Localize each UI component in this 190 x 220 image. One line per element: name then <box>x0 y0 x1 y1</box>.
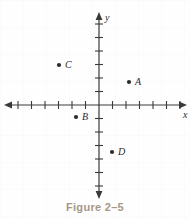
figure-caption: Figure 2–5 <box>0 202 190 213</box>
y-axis-arrow-down-icon <box>96 191 103 199</box>
point-marker-c <box>57 63 61 67</box>
y-axis-arrow-up-icon <box>96 12 103 20</box>
point-label-a: A <box>135 77 141 87</box>
point-label-c: C <box>65 60 72 70</box>
x-axis-arrow-left-icon <box>4 102 12 109</box>
point-marker-b <box>74 115 78 119</box>
point-label-d: D <box>118 147 125 157</box>
point-marker-a <box>127 80 131 84</box>
point-marker-d <box>110 150 114 154</box>
y-axis-label: y <box>105 13 109 23</box>
x-axis-label: x <box>183 110 187 120</box>
coordinate-plane <box>0 0 190 220</box>
point-label-b: B <box>82 112 88 122</box>
figure-panel: A B C D y x Figure 2–5 <box>0 0 190 220</box>
